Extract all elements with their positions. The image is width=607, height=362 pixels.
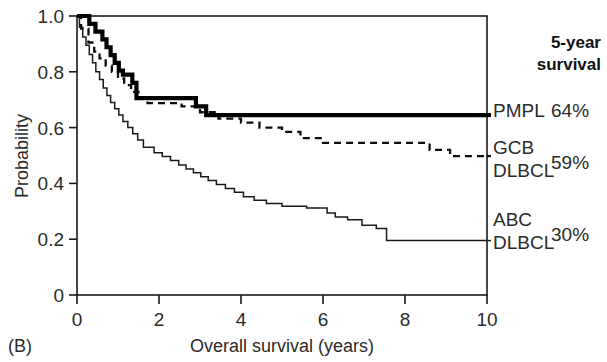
panel-label: (B) (8, 336, 32, 356)
legend-value-abc: 30% (551, 224, 589, 245)
x-tick-label: 10 (476, 309, 497, 330)
survival-chart-figure: 00.20.40.60.81.0 0246810 Probability Ove… (0, 0, 607, 362)
x-tick-label: 8 (400, 309, 411, 330)
legend-entry-pmpl: PMPL 64% (493, 100, 589, 121)
x-axis-ticks: 0246810 (72, 295, 498, 330)
legend-label-pmpl: PMPL (493, 100, 545, 121)
kaplan-meier-chart: 00.20.40.60.81.0 0246810 Probability Ove… (0, 0, 607, 362)
x-tick-label: 2 (154, 309, 165, 330)
y-tick-label: 0.6 (38, 118, 64, 139)
x-tick-label: 4 (236, 309, 247, 330)
y-axis-title: Probability (12, 114, 32, 198)
x-axis-title: Overall survival (years) (190, 336, 374, 356)
survival-curves (77, 16, 491, 241)
y-axis-ticks: 00.20.40.60.81.0 (38, 6, 77, 306)
legend-label-abc-line1: ABC (493, 209, 532, 230)
y-tick-label: 0.4 (38, 173, 65, 194)
y-tick-label: 0 (53, 285, 64, 306)
plot-frame (77, 16, 487, 295)
legend-value-gcb: 59% (551, 152, 589, 173)
legend-entry-gcb-dlbcl: GCB DLBCL 59% (493, 137, 589, 181)
curve-pmpl (77, 16, 487, 115)
legend-header-line1: 5-year (551, 33, 601, 52)
x-tick-label: 0 (72, 309, 83, 330)
y-tick-label: 0.2 (38, 229, 64, 250)
legend-label-gcb-line1: GCB (493, 137, 534, 158)
legend-label-gcb-line2: DLBCL (493, 160, 554, 181)
y-tick-label: 1.0 (38, 6, 64, 27)
legend-entry-abc-dlbcl: ABC DLBCL 30% (493, 209, 589, 253)
y-tick-label: 0.8 (38, 62, 64, 83)
legend-value-pmpl: 64% (551, 100, 589, 121)
legend-label-abc-line2: DLBCL (493, 232, 554, 253)
x-tick-label: 6 (318, 309, 329, 330)
legend-header-line2: survival (537, 55, 601, 74)
